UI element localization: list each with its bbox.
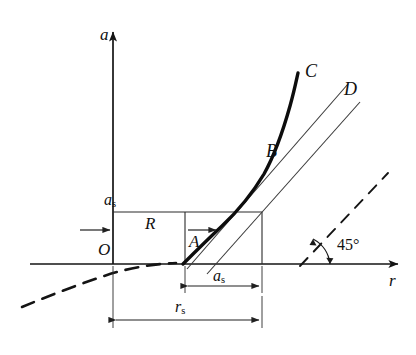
point-label-B: B	[266, 142, 277, 160]
as-vertical-subscript: s	[112, 198, 116, 209]
thin-line-to-D	[187, 84, 348, 269]
angle-label-45: 45°	[337, 237, 359, 253]
thick-curve-ABC	[183, 73, 298, 264]
region-label-A: A	[189, 233, 199, 250]
point-label-D: D	[344, 80, 357, 98]
x-axis-label: r	[389, 272, 396, 289]
origin-label: O	[98, 241, 110, 258]
as-vertical-symbol: a	[104, 191, 112, 208]
as-vertical-label: as	[104, 192, 116, 210]
rs-horizontal-label: rs	[175, 299, 185, 317]
figure-root: a r O R A B C D as as rs 45°	[0, 0, 416, 355]
as-horizontal-subscript: s	[221, 274, 225, 285]
region-label-R: R	[145, 215, 155, 232]
diagram-canvas	[0, 0, 416, 355]
point-label-C: C	[305, 62, 317, 80]
y-axis-label: a	[100, 26, 109, 43]
as-horizontal-label: as	[213, 268, 225, 286]
rs-horizontal-subscript: s	[181, 305, 185, 316]
rs-horizontal-dimension	[113, 266, 262, 328]
axis-group	[30, 32, 398, 264]
as-horizontal-symbol: a	[213, 267, 221, 284]
dashed-left-branch	[22, 263, 176, 307]
